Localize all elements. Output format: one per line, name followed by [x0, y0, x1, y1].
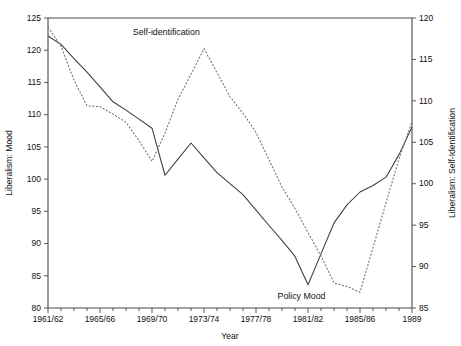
y-axis-left-tick-label: 125: [27, 13, 41, 23]
x-axis-tick-label: 1981/82: [293, 314, 324, 324]
series-line-policy-mood: [48, 36, 412, 285]
x-axis-ticks: 1961/621965/661969/701973/741977/781981/…: [33, 308, 422, 324]
y-axis-left-tick-label: 90: [32, 238, 42, 248]
plot-frame: [48, 18, 412, 308]
series-line-self-identification: [48, 27, 412, 292]
y-axis-left-tick-label: 115: [27, 77, 41, 87]
series-annotation-policy-mood: Policy Mood: [278, 291, 326, 301]
y-axis-left-tick-label: 100: [27, 174, 41, 184]
y-axis-left-tick-label: 110: [27, 109, 41, 119]
y-axis-left-tick-label: 85: [32, 271, 42, 281]
y-axis-left-title: Liberalism: Mood: [4, 130, 14, 196]
y-axis-left-ticks: 80859095100105110115120125: [27, 13, 48, 313]
series-lines: [48, 27, 412, 292]
y-axis-right-tick-label: 95: [419, 220, 429, 230]
line-chart: 80859095100105110115120125 8590951001051…: [0, 0, 461, 346]
x-axis-tick-label: 1977/78: [241, 314, 272, 324]
x-axis-tick-label: 1969/70: [137, 314, 168, 324]
series-annotation-self-identification: Self-identification: [133, 27, 200, 37]
y-axis-right-tick-label: 120: [419, 13, 433, 23]
y-axis-right-tick-label: 105: [419, 137, 433, 147]
x-axis-tick-label: 1965/66: [85, 314, 116, 324]
y-axis-right-tick-label: 115: [419, 54, 433, 64]
y-axis-right-tick-label: 110: [419, 96, 433, 106]
y-axis-left-tick-label: 105: [27, 142, 41, 152]
y-axis-right-tick-label: 85: [419, 303, 429, 313]
y-axis-right-tick-label: 100: [419, 178, 433, 188]
y-axis-left-tick-label: 120: [27, 45, 41, 55]
x-axis-title: Year: [221, 331, 239, 341]
y-axis-left-tick-label: 80: [32, 303, 42, 313]
x-axis-tick-label: 1985/86: [345, 314, 376, 324]
y-axis-left-tick-label: 95: [32, 206, 42, 216]
y-axis-right-ticks: 859095100105110115120: [412, 13, 433, 313]
chart-container: 80859095100105110115120125 8590951001051…: [0, 0, 461, 346]
y-axis-right-title: Liberalism: Self-Identification: [447, 108, 457, 218]
x-axis-tick-label: 1973/74: [189, 314, 220, 324]
x-axis-tick-label: 1989: [403, 314, 422, 324]
y-axis-right-tick-label: 90: [419, 261, 429, 271]
x-axis-tick-label: 1961/62: [33, 314, 64, 324]
